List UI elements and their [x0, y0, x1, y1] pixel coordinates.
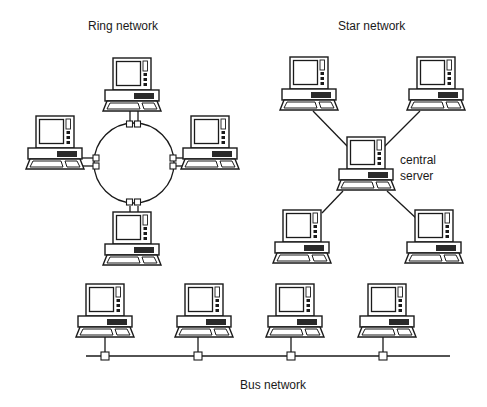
computer-icon — [26, 116, 84, 169]
star-network-title: Star network — [338, 19, 406, 33]
computer-icon — [273, 210, 331, 263]
bus-tap — [287, 352, 295, 360]
server-label-line1: central — [400, 153, 436, 167]
ring-connector — [127, 199, 133, 205]
computer-icon — [266, 284, 324, 337]
bus-tap — [194, 352, 202, 360]
star-link — [387, 191, 417, 219]
ring-connector — [93, 163, 99, 169]
bus-network-title: Bus network — [240, 378, 307, 392]
star-link — [313, 111, 349, 148]
computer-icon — [103, 212, 161, 265]
ring-network-title: Ring network — [88, 19, 159, 33]
star-link — [384, 111, 420, 147]
computer-icon — [405, 210, 463, 263]
star-network: Star network central server — [273, 19, 465, 263]
computer-icon — [175, 284, 233, 337]
computer-icon — [358, 284, 416, 337]
ring-connector — [135, 121, 141, 127]
computer-icon — [407, 57, 465, 110]
computer-icon — [76, 284, 134, 337]
network-topologies-diagram: Ring network Star network — [0, 0, 487, 407]
server-label-line2: server — [400, 169, 433, 183]
ring-network: Ring network — [26, 19, 239, 265]
ring-connector — [93, 155, 99, 161]
star-link — [322, 191, 343, 213]
ring-connector — [170, 155, 176, 161]
ring-connector — [170, 163, 176, 169]
computer-icon — [103, 58, 161, 111]
computer-icon — [181, 116, 239, 169]
ring-connector — [127, 121, 133, 127]
bus-tap — [379, 352, 387, 360]
ring-connector — [135, 199, 141, 205]
ring-cable — [94, 123, 174, 203]
bus-tap — [101, 352, 109, 360]
computer-icon — [280, 57, 338, 110]
bus-network: Bus network — [76, 284, 450, 392]
